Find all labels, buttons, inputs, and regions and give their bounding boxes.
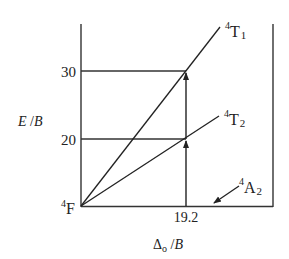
level-label-4T2: 4T2 — [224, 108, 245, 129]
pointer-arrow-4A2 — [214, 186, 239, 203]
ground-state-label: 4F — [61, 198, 75, 217]
level-label-4A2: 4A2 — [239, 176, 262, 197]
x-tick-19.2: 19.2 — [174, 210, 199, 225]
y-tick-20: 20 — [61, 132, 76, 148]
level-line-4T2 — [81, 116, 219, 206]
energy-diagram: 30 20 E /B 19.2 Δo /B 4F 4T1 4T2 4A2 — [0, 0, 289, 259]
x-axis-label: Δo /B — [153, 237, 183, 254]
y-axis-label: E /B — [17, 114, 43, 129]
level-line-4T1 — [81, 27, 220, 206]
level-label-4T1: 4T1 — [225, 20, 246, 41]
y-tick-30: 30 — [61, 64, 76, 80]
